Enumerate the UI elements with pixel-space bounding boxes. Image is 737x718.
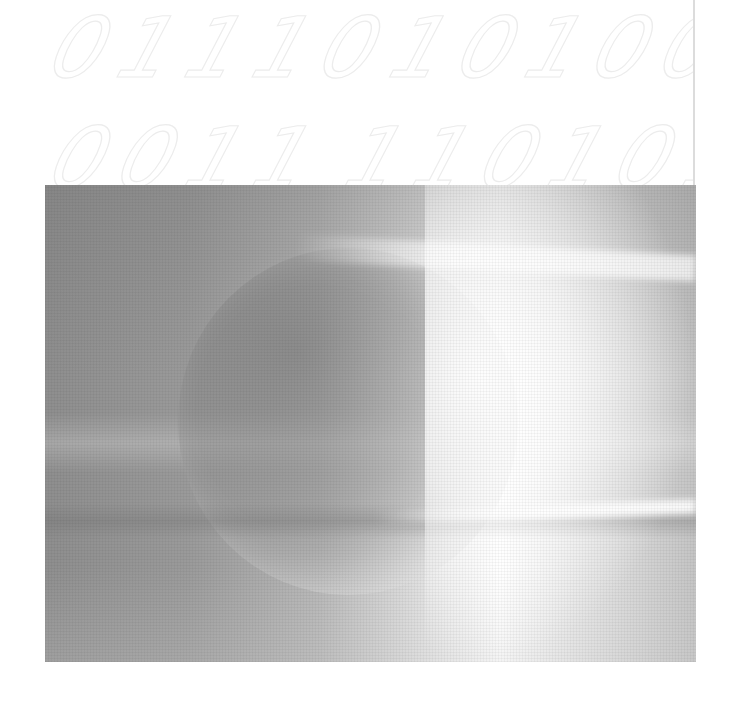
sphere-photo xyxy=(45,185,696,662)
print-grain-texture xyxy=(45,185,696,662)
binary-row-2-left: 0011 xyxy=(41,116,338,186)
binary-text-header: 01110 1010000 0011 1101010 xyxy=(0,0,693,186)
binary-row-1-right: 1010000 xyxy=(381,6,693,90)
binary-row-1-left: 01110 xyxy=(41,6,406,90)
binary-row-2-right: 1101010 xyxy=(336,116,693,186)
page-edge-line xyxy=(693,0,695,190)
